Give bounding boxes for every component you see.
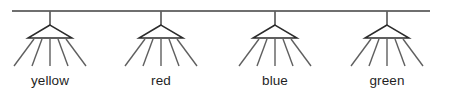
light-ray xyxy=(351,39,371,66)
light-ray xyxy=(177,39,197,66)
lamp-diagram: yellow red blue xyxy=(0,0,449,110)
lamp-group-yellow[interactable]: yellow xyxy=(14,11,86,88)
light-ray xyxy=(395,39,405,66)
light-ray xyxy=(143,39,153,66)
light-ray xyxy=(58,39,68,66)
lamp-label-red: red xyxy=(151,73,171,88)
light-rays xyxy=(125,39,197,66)
lamp-label-green: green xyxy=(369,73,404,88)
lamp-shade xyxy=(139,25,183,38)
lamp-group-red[interactable]: red xyxy=(125,11,197,88)
light-ray xyxy=(169,39,179,66)
lamp-shade xyxy=(365,25,409,38)
light-ray xyxy=(125,39,145,66)
light-rays xyxy=(14,39,86,66)
light-rays xyxy=(239,39,311,66)
lamp-group-green[interactable]: green xyxy=(351,11,423,88)
lamp-diagram-canvas: yellow red blue xyxy=(0,0,449,110)
light-ray xyxy=(239,39,259,66)
lamp-label-yellow: yellow xyxy=(31,73,69,88)
lamp-shade xyxy=(28,25,72,38)
light-ray xyxy=(369,39,379,66)
lamp-group-blue[interactable]: blue xyxy=(239,11,311,88)
light-ray xyxy=(32,39,42,66)
light-ray xyxy=(291,39,311,66)
light-ray xyxy=(14,39,34,66)
light-ray xyxy=(66,39,86,66)
lamp-shade xyxy=(253,25,297,38)
light-ray xyxy=(257,39,267,66)
light-ray xyxy=(403,39,423,66)
light-ray xyxy=(283,39,293,66)
lamp-label-blue: blue xyxy=(262,73,288,88)
light-rays xyxy=(351,39,423,66)
